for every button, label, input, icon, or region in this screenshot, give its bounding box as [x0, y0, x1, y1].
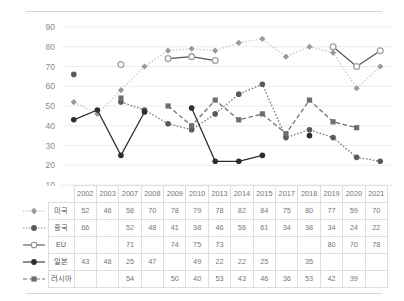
table-cell [96, 237, 118, 254]
data-point [71, 72, 77, 78]
table-cell [253, 237, 275, 254]
legend-diamond-dotted-icon [22, 203, 48, 220]
table-cell: 70 [365, 203, 387, 220]
table-cell: 61 [253, 220, 275, 237]
table-cell: 38 [298, 220, 320, 237]
table-cell: 84 [253, 203, 275, 220]
table-cell: 47 [141, 254, 163, 271]
data-point [354, 125, 359, 130]
table-cell: 42 [320, 271, 342, 288]
data-point [118, 96, 123, 101]
data-point [260, 111, 265, 116]
table-cell [320, 254, 342, 271]
table-cell [96, 220, 118, 237]
table-row: 일본434825474922222535 [22, 254, 387, 271]
svg-text:90: 90 [46, 22, 56, 32]
table-cell: 78 [365, 237, 387, 254]
table-cell [298, 237, 320, 254]
table-col-header-2019: 2019 [320, 186, 342, 203]
table-cell: 70 [343, 237, 365, 254]
table-cell: 25 [253, 254, 275, 271]
table-cell: 49 [186, 254, 208, 271]
table-col-header-2015: 2015 [253, 186, 275, 203]
table-cell: 53 [298, 271, 320, 288]
data-point [283, 54, 289, 60]
table-cell: 46 [253, 271, 275, 288]
data-point [236, 91, 242, 97]
table-cell: 77 [320, 203, 342, 220]
table-cell [365, 254, 387, 271]
legend-circle-dotted-icon [22, 220, 48, 237]
data-point [165, 103, 170, 108]
table-cell: 38 [186, 220, 208, 237]
table-cell: 59 [343, 203, 365, 220]
legend-circle-open-solid-icon [22, 237, 48, 254]
table-cell: 22 [365, 220, 387, 237]
table-col-header-2017: 2017 [276, 186, 298, 203]
table-col-header-2003: 2003 [96, 186, 118, 203]
data-point [118, 153, 124, 159]
table-cell: 48 [141, 220, 163, 237]
svg-text:30: 30 [46, 141, 56, 151]
table-col-header-2013: 2013 [208, 186, 230, 203]
svg-text:40: 40 [46, 121, 56, 131]
table-cell: 43 [231, 271, 253, 288]
header-legend-blank [22, 186, 48, 203]
data-point [71, 99, 77, 105]
data-point [259, 36, 265, 42]
data-point [306, 44, 312, 50]
data-point [165, 121, 171, 127]
data-point [165, 48, 171, 54]
top-divider [26, 11, 382, 12]
table-cell [164, 254, 186, 271]
table-cell [96, 271, 118, 288]
data-point [236, 159, 242, 165]
series-러시아 [118, 96, 359, 137]
data-point [212, 58, 218, 64]
series-name-2: EU [48, 237, 74, 254]
table-cell: 46 [208, 220, 230, 237]
data-point [307, 97, 312, 102]
table-cell: 78 [164, 203, 186, 220]
table-cell: 36 [276, 271, 298, 288]
data-point [212, 159, 218, 165]
table-col-header-2008: 2008 [141, 186, 163, 203]
data-point [377, 48, 383, 54]
table-cell: 73 [208, 237, 230, 254]
svg-text:60: 60 [46, 81, 56, 91]
table-cell: 34 [320, 220, 342, 237]
table-col-header-2018: 2018 [298, 186, 320, 203]
table-cell: 25 [119, 254, 141, 271]
data-point [189, 105, 195, 111]
table-col-header-2020: 2020 [343, 186, 365, 203]
table-row: 미국5246587078797882847580775970 [22, 203, 387, 220]
data-point [330, 44, 336, 50]
table-cell: 40 [186, 271, 208, 288]
table-cell: 48 [96, 254, 118, 271]
table-cell: 22 [231, 254, 253, 271]
table-cell: 71 [119, 237, 141, 254]
table-col-header-2007: 2007 [119, 186, 141, 203]
data-point [377, 159, 383, 165]
table-cell: 58 [119, 203, 141, 220]
table-col-header-2010: 2010 [186, 186, 208, 203]
table-cell: 75 [186, 237, 208, 254]
table-cell [74, 237, 96, 254]
table-cell: 80 [298, 203, 320, 220]
table-cell [74, 271, 96, 288]
svg-text:50: 50 [46, 101, 56, 111]
data-point [260, 81, 266, 87]
header-name-blank [48, 186, 74, 203]
table-cell: 24 [343, 220, 365, 237]
table-body: 미국5246587078797882847580775970중국66524841… [22, 203, 387, 288]
series-name-0: 미국 [48, 203, 74, 220]
table-cell: 74 [164, 237, 186, 254]
legend-circle-filled-solid-icon [22, 254, 48, 271]
chart-page: 102030405060708090 200220032007200820092… [0, 0, 404, 301]
table-cell: 70 [141, 203, 163, 220]
table-cell: 66 [74, 220, 96, 237]
table-cell: 22 [208, 254, 230, 271]
table-col-header-2009: 2009 [164, 186, 186, 203]
table-cell [276, 254, 298, 271]
data-point [189, 123, 194, 128]
